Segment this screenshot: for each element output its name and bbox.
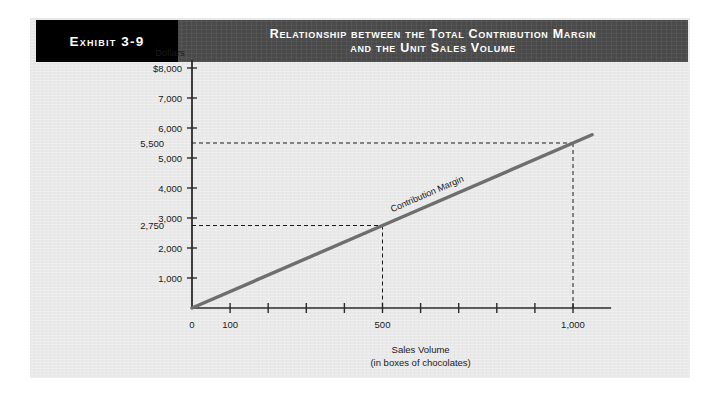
- exhibit-figure: Exhibit 3-9 Relationship between the Tot…: [0, 0, 721, 400]
- contribution-margin-line: [192, 135, 592, 308]
- y-axis-tick-label: 2,000: [158, 243, 182, 254]
- x-axis-tick-label: 0: [189, 319, 194, 330]
- y-axis-tick-label: $8,000: [153, 63, 182, 74]
- annotation-value-label: 2,750: [140, 220, 164, 231]
- y-axis-title: Dollars: [155, 47, 185, 58]
- x-axis-tick-label: 100: [222, 319, 238, 330]
- x-axis-subtitle: (in boxes of chocolates): [370, 357, 470, 368]
- y-axis-tick-label: 1,000: [158, 273, 182, 284]
- x-axis-tick-label: 1,000: [561, 319, 585, 330]
- x-axis-title: Sales Volume: [392, 344, 450, 355]
- annotation-value-label: 5,500: [140, 138, 164, 149]
- contribution-margin-line-chart: 1,0002,0003,0004,0005,0006,0007,000$8,00…: [30, 18, 690, 378]
- y-axis-tick-label: 6,000: [158, 123, 182, 134]
- x-axis-tick-label: 500: [375, 319, 391, 330]
- chart-area: 1,0002,0003,0004,0005,0006,0007,000$8,00…: [30, 18, 690, 378]
- y-axis-tick-label: 5,000: [158, 153, 182, 164]
- y-axis-tick-label: 7,000: [158, 93, 182, 104]
- y-axis-tick-label: 4,000: [158, 183, 182, 194]
